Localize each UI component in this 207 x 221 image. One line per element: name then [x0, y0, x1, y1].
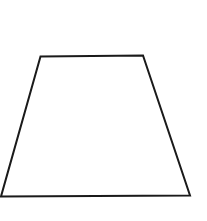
diagram-canvas [0, 0, 207, 221]
trapezoid-shape [1, 56, 190, 197]
